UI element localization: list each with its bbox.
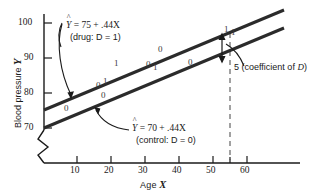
- scatter-label: 1: [231, 27, 236, 37]
- drug-equation-annotation: ^Y = 75 + .44X: [66, 20, 120, 31]
- control-condition-annotation: (control: D = 0): [136, 135, 196, 145]
- scatter-label: 1: [224, 24, 229, 34]
- control-y-hat: ^Y: [132, 123, 137, 134]
- scatter-label: 0: [96, 80, 101, 90]
- drug-condition-annotation: (drug: D = 1): [70, 32, 121, 42]
- scatter-label: 1: [114, 58, 119, 68]
- x-axis-ticks: [77, 156, 247, 163]
- y-axis-title: Blood pressure Y: [12, 59, 23, 128]
- y-axis-title-var: Y: [12, 59, 23, 65]
- x-tick-label-30: 30: [138, 165, 148, 175]
- control-equation-text: = 70 + .44X: [137, 123, 185, 133]
- gap-indicator: [219, 34, 224, 62]
- drug-y-hat: ^Y: [66, 20, 71, 31]
- coefficient-close: ): [304, 62, 307, 72]
- regression-line-control: [44, 28, 284, 128]
- scatter-label: 0: [158, 44, 163, 54]
- x-axis-title-var: X: [159, 179, 166, 190]
- coefficient-annotation: 5 (coefficient of D): [234, 62, 307, 72]
- coefficient-text: (coefficient of: [239, 62, 297, 72]
- regression-dummy-variable-chart: 100 90 80 70 10 20 30 40 50 60 Age X Blo…: [0, 0, 309, 193]
- control-leader-arrow: [94, 107, 129, 130]
- x-tick-label-60: 60: [240, 165, 250, 175]
- y-axis-ticks: [44, 23, 52, 128]
- drug-hat-symbol: ^: [67, 14, 71, 22]
- scatter-label: 0: [64, 103, 69, 113]
- x-tick-label-50: 50: [206, 165, 216, 175]
- y-tick-label-80: 80: [24, 87, 34, 97]
- y-tick-label-70: 70: [24, 122, 34, 132]
- x-tick-label-40: 40: [172, 165, 182, 175]
- y-tick-label-100: 100: [18, 17, 32, 27]
- scatter-label: 0: [146, 59, 151, 69]
- x-tick-label-20: 20: [104, 165, 114, 175]
- control-equation-annotation: ^Y = 70 + .44X: [132, 123, 186, 134]
- scatter-label: 1: [103, 76, 108, 86]
- scatter-label: 0: [101, 90, 106, 100]
- scatter-label: 1: [153, 62, 158, 72]
- y-tick-label-90: 90: [24, 52, 34, 62]
- chart-canvas: [0, 0, 309, 193]
- x-tick-label-10: 10: [70, 165, 80, 175]
- drug-equation-text: = 75 + .44X: [71, 20, 119, 30]
- x-axis-title-prefix: Age: [140, 180, 159, 190]
- x-axis-title: Age X: [140, 179, 167, 190]
- scatter-label: 0: [188, 57, 193, 67]
- y-axis-break-zigzag: [38, 130, 48, 163]
- control-hat-symbol: ^: [133, 117, 137, 125]
- y-axis-title-prefix: Blood pressure: [13, 65, 23, 128]
